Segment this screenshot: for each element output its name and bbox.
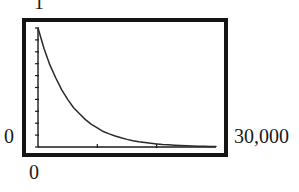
x-axis-max-label: 30,000 [234, 126, 289, 146]
plot-surface [26, 22, 224, 153]
y-axis-max-label: 1 [34, 0, 44, 12]
x-axis-min-label: 0 [29, 162, 39, 182]
decay-curve-plot [26, 22, 224, 153]
y-axis-min-label: 0 [4, 126, 14, 146]
plot-frame [22, 18, 228, 157]
figure-root: 1 0 0 30,000 [0, 0, 299, 192]
series-line-decay [38, 28, 216, 147]
